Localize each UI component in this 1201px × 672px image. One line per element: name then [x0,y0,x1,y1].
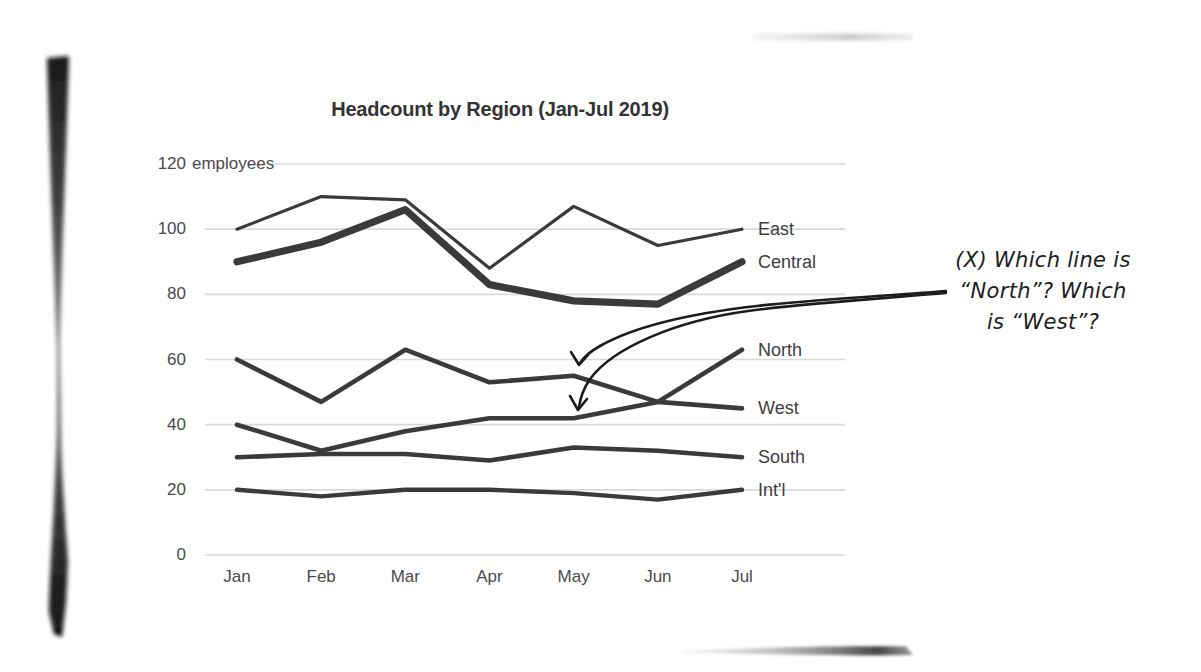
x-tick-label-apr: Apr [458,566,522,588]
series-label-west: West [758,397,799,419]
x-tick-label-feb: Feb [289,566,353,588]
series-label-north: North [758,339,802,361]
x-tick-label-jan: Jan [205,566,269,588]
annotation-line-3: is “West”? [927,307,1159,338]
series-label-east: East [758,218,794,240]
series-label-central: Central [758,251,816,273]
y-axis-unit-label: employees [192,153,274,175]
y-tick-label-60: 60 [116,349,186,371]
y-tick-label-20: 20 [116,479,186,501]
y-tick-label-120: 120 [116,153,186,175]
y-tick-label-40: 40 [116,414,186,436]
annotation-line-1: (X) Which line is [927,245,1159,276]
chart-title: Headcount by Region (Jan-Jul 2019) [280,98,720,121]
handwritten-annotation-text: (X) Which line is “North”? Which is “Wes… [927,245,1159,338]
x-tick-label-jul: Jul [710,566,774,588]
x-tick-label-jun: Jun [626,566,690,588]
series-label-intl: Int'l [758,479,785,501]
annotation-line-2: “North”? Which [927,276,1159,307]
y-tick-label-0: 0 [116,544,186,566]
y-tick-label-80: 80 [116,283,186,305]
x-tick-label-mar: Mar [373,566,437,588]
y-tick-label-100: 100 [116,218,186,240]
series-label-south: South [758,446,805,468]
chart-text-layer: Headcount by Region (Jan-Jul 2019) emplo… [0,0,1201,672]
x-tick-label-may: May [542,566,606,588]
scanned-page: Headcount by Region (Jan-Jul 2019) emplo… [0,0,1201,672]
